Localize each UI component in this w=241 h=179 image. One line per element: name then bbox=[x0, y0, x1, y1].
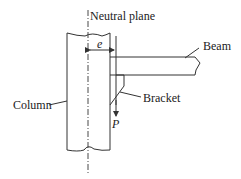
neutral-plane-label: Neutral plane bbox=[90, 9, 155, 23]
load-label: P bbox=[111, 117, 120, 131]
beam-label: Beam bbox=[203, 39, 232, 53]
column-leader bbox=[49, 101, 67, 105]
bracket-leader bbox=[120, 92, 141, 97]
column bbox=[67, 33, 110, 151]
column-label: Column bbox=[13, 98, 52, 112]
bracket-label: Bracket bbox=[143, 91, 181, 105]
eccentricity-label: e bbox=[97, 37, 103, 51]
beam bbox=[110, 57, 200, 75]
diagram-canvas: Neutral plane e Beam Column Bracket P bbox=[0, 0, 241, 179]
bracket bbox=[110, 75, 124, 105]
